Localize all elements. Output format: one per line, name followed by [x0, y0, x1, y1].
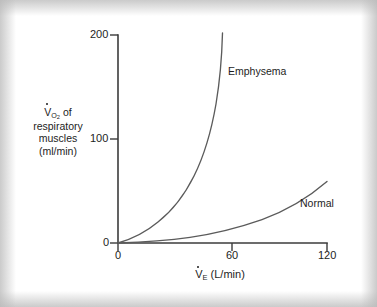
y-axis-label-line2: respiratory: [14, 120, 102, 132]
x-tick-label-0: 0: [115, 250, 121, 261]
curve-emphysema: [118, 33, 223, 243]
y-axis-label-line3: muscles: [14, 132, 102, 144]
x-tick-label-60: 60: [226, 250, 238, 261]
x-axis-units: (L/min): [208, 268, 245, 280]
y-axis-label-line4: (ml/min): [14, 145, 102, 157]
x-tick-label-120: 120: [318, 250, 336, 261]
x-axis-label: VE (L/min): [140, 269, 300, 280]
y-tick-label-200: 200: [90, 29, 108, 40]
y-axis-subscript: O2: [51, 112, 60, 120]
y-axis-label: VO2 of respiratory muscles (ml/min): [14, 106, 102, 157]
curve-label-emphysema: Emphysema: [228, 66, 286, 77]
y-axis-label-of: of: [60, 106, 72, 118]
x-axis-subscript: E: [203, 273, 208, 282]
y-tick-label-0: 0: [103, 237, 109, 248]
curve-normal: [118, 182, 327, 244]
v-dot-symbol-x: V: [195, 269, 202, 280]
y-axis-label-line1: VO2 of: [14, 106, 102, 120]
curve-label-normal: Normal: [300, 198, 334, 209]
figure-panel: 200 100 0 0 60 120 VO2 of respiratory mu…: [0, 0, 377, 307]
